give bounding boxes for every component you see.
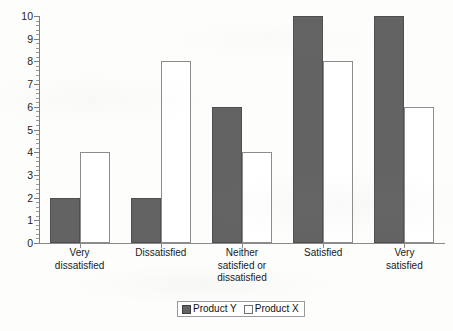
category-label-line: satisfied xyxy=(364,260,445,273)
x-axis-category-label: Verydissatisfied xyxy=(39,247,120,272)
y-tick-label: 5 xyxy=(7,125,33,135)
category-label-line: Very xyxy=(364,247,445,260)
y-tick-label: 8 xyxy=(7,56,33,66)
x-axis-category-label: Neithersatisfied ordissatisfied xyxy=(201,247,282,285)
chart-legend: Product YProduct X xyxy=(177,301,305,317)
category-label-line: Dissatisfied xyxy=(120,247,201,260)
y-tick-label: 10 xyxy=(7,11,33,21)
y-tick-label: 7 xyxy=(7,79,33,89)
bar-chart: 012345678910 VerydissatisfiedDissatisfie… xyxy=(0,0,453,331)
bar-product-x xyxy=(323,61,353,243)
x-axis-category-label: Dissatisfied xyxy=(120,247,201,260)
legend-label: Product Y xyxy=(193,304,237,314)
bar-product-y xyxy=(131,198,161,243)
y-tick-label: 3 xyxy=(7,170,33,180)
x-axis-category-label: Verysatisfied xyxy=(364,247,445,272)
bar-product-y xyxy=(50,198,80,243)
y-tick-label: 6 xyxy=(7,102,33,112)
bar-product-y xyxy=(293,16,323,243)
y-tick-label: 4 xyxy=(7,147,33,157)
legend-swatch-icon xyxy=(244,305,253,314)
bar-product-x xyxy=(404,107,434,243)
legend-entry: Product X xyxy=(244,304,299,314)
legend-swatch-icon xyxy=(182,305,191,314)
bar-product-x xyxy=(80,152,110,243)
category-label-line: satisfied or xyxy=(201,260,282,273)
category-label-line: dissatisfied xyxy=(201,272,282,285)
legend-entry: Product Y xyxy=(182,304,237,314)
category-label-line: dissatisfied xyxy=(39,260,120,273)
y-tick-label: 1 xyxy=(7,215,33,225)
x-axis-category-labels: VerydissatisfiedDissatisfiedNeithersatis… xyxy=(39,247,445,297)
category-label-line: Neither xyxy=(201,247,282,260)
y-axis-labels: 012345678910 xyxy=(0,16,33,243)
y-tick-major xyxy=(34,243,39,244)
plot-area xyxy=(39,16,445,243)
category-label-line: Very xyxy=(39,247,120,260)
bar-product-y xyxy=(212,107,242,243)
category-label-line: Satisfied xyxy=(283,247,364,260)
bar-product-y xyxy=(374,16,404,243)
y-tick-label: 9 xyxy=(7,34,33,44)
bars-group xyxy=(39,16,445,243)
y-tick-label: 2 xyxy=(7,193,33,203)
legend-label: Product X xyxy=(255,304,299,314)
y-tick-label: 0 xyxy=(7,238,33,248)
bar-product-x xyxy=(161,61,191,243)
bar-product-x xyxy=(242,152,272,243)
x-axis-category-label: Satisfied xyxy=(283,247,364,260)
